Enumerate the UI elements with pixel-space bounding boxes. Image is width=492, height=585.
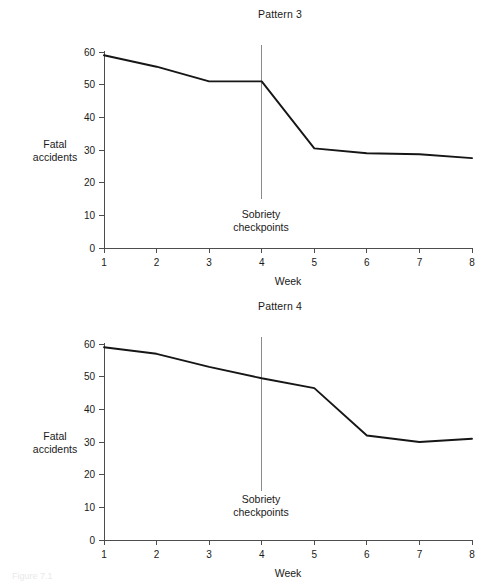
y-tick-label: 60 <box>84 47 96 58</box>
reference-caption-line2: checkpoints <box>206 221 316 234</box>
data-line-series <box>104 347 472 442</box>
x-tick-label: 7 <box>417 549 423 560</box>
reference-line-caption-pattern4: Sobriety checkpoints <box>206 493 316 518</box>
y-tick-label: 0 <box>89 535 95 546</box>
x-tick-label: 6 <box>364 257 370 268</box>
y-tick-label: 60 <box>84 339 96 350</box>
x-tick-label: 5 <box>312 257 318 268</box>
x-tick-label: 3 <box>206 549 212 560</box>
reference-caption-line1: Sobriety <box>206 208 316 221</box>
chart-panel-pattern4: Pattern 4 010203040506012345678 Fatal ac… <box>0 292 492 564</box>
y-tick-label: 50 <box>84 79 96 90</box>
x-tick-label: 2 <box>154 257 160 268</box>
reference-line-caption-pattern3: Sobriety checkpoints <box>206 208 316 233</box>
reference-caption-line1: Sobriety <box>206 493 316 506</box>
tick-labels-pattern3: 010203040506012345678 <box>84 47 475 268</box>
y-axis-label-line2: accidents <box>12 151 98 164</box>
x-tick-label: 1 <box>101 549 107 560</box>
y-tick-label: 20 <box>84 177 96 188</box>
data-series-pattern4 <box>104 347 472 442</box>
x-tick-label: 6 <box>364 549 370 560</box>
y-tick-label: 0 <box>89 243 95 254</box>
tick-labels-pattern4: 010203040506012345678 <box>84 339 475 560</box>
x-tick-label: 1 <box>101 257 107 268</box>
x-tick-label: 4 <box>259 257 265 268</box>
y-tick-label: 40 <box>84 112 96 123</box>
y-axis-label-pattern4: Fatal accidents <box>12 430 98 455</box>
x-tick-label: 8 <box>469 257 475 268</box>
x-tick-label: 2 <box>154 549 160 560</box>
y-tick-label: 40 <box>84 404 96 415</box>
data-series-pattern3 <box>104 55 472 158</box>
x-tick-label: 4 <box>259 549 265 560</box>
y-tick-label: 10 <box>84 502 96 513</box>
y-axis-label-pattern3: Fatal accidents <box>12 138 98 163</box>
y-axis-label-line1: Fatal <box>12 430 98 443</box>
figure-two-line-charts: Pattern 3 010203040506012345678 Fatal ac… <box>0 0 492 585</box>
x-tick-label: 3 <box>206 257 212 268</box>
y-tick-label: 20 <box>84 469 96 480</box>
x-axis-label-pattern3: Week <box>248 275 328 288</box>
chart-panel-pattern3: Pattern 3 010203040506012345678 Fatal ac… <box>0 0 492 292</box>
x-tick-label: 5 <box>312 549 318 560</box>
x-tick-label: 7 <box>417 257 423 268</box>
reference-caption-line2: checkpoints <box>206 506 316 519</box>
figure-caption: Figure 7.1 <box>12 571 432 581</box>
data-line-series <box>104 55 472 158</box>
y-tick-label: 10 <box>84 210 96 221</box>
x-tick-label: 8 <box>469 549 475 560</box>
y-axis-label-line1: Fatal <box>12 138 98 151</box>
y-tick-label: 50 <box>84 371 96 382</box>
y-axis-label-line2: accidents <box>12 443 98 456</box>
